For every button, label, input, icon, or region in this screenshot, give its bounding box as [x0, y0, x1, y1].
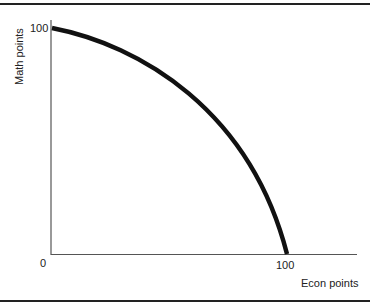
- chart-figure: 100 0 100 Econ points Math points: [0, 0, 370, 306]
- x-axis-title: Econ points: [301, 277, 358, 289]
- chart-canvas: [0, 0, 370, 306]
- x-tick-100: 100: [276, 259, 294, 271]
- y-axis-title: Math points: [13, 28, 25, 85]
- ppf-curve: [52, 28, 287, 254]
- y-tick-100: 100: [30, 22, 48, 34]
- origin-label: 0: [40, 257, 46, 269]
